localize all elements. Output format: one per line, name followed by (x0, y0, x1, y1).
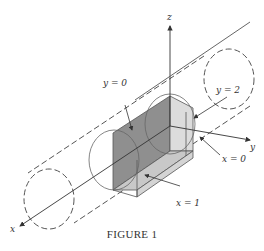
cylinder-diagram: z y x y = 0 y = 2 x = 0 x = 1 (0, 0, 264, 251)
label-y-equals-0: y = 0 (102, 78, 127, 88)
figure-diagram: z y x y = 0 y = 2 x = 0 x = 1 FIGURE 1 (0, 0, 264, 251)
label-x-equals-0: x = 0 (222, 154, 246, 164)
y-axis-label: y (249, 142, 256, 152)
label-x-equals-1: x = 1 (176, 198, 200, 208)
label-y-equals-2: y = 2 (215, 85, 240, 95)
figure-caption: FIGURE 1 (0, 228, 264, 240)
z-axis-label: z (166, 12, 172, 22)
